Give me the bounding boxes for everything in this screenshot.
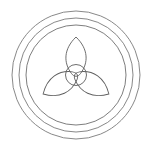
figure-root [0,0,152,153]
trefoil-emblem-svg [0,0,152,153]
